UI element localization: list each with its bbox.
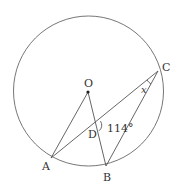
angle-label-114: 114° [107, 122, 134, 135]
label-a: A [41, 160, 51, 173]
geometry-diagram: O C A B D 114° x [0, 0, 180, 191]
label-b: B [103, 171, 111, 184]
angle-arc-x [147, 80, 151, 84]
angle-label-x: x [141, 84, 147, 95]
label-c: C [162, 61, 170, 74]
center-point-o [86, 90, 89, 93]
label-o: O [84, 77, 93, 90]
label-d: D [88, 128, 97, 141]
segment-oa [51, 92, 88, 158]
angle-arc-114 [99, 121, 102, 131]
